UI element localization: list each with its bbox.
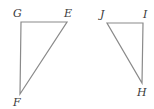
- vertex-label-F: F: [12, 96, 21, 109]
- triangle-JIH-shape: [107, 23, 143, 83]
- vertex-label-H: H: [136, 86, 147, 99]
- vertex-label-J: J: [98, 8, 105, 21]
- vertex-label-E: E: [63, 7, 72, 20]
- triangle-JIH: J I H: [98, 8, 148, 99]
- triangles-figure: G E F J I H: [0, 0, 154, 109]
- vertex-label-I: I: [142, 8, 148, 21]
- triangle-GEF-shape: [20, 22, 67, 94]
- vertex-label-G: G: [13, 7, 22, 20]
- triangle-GEF: G E F: [12, 7, 72, 109]
